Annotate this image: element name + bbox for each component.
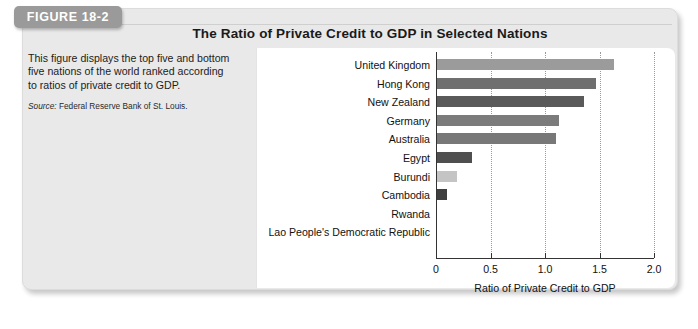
x-axis-tick <box>654 253 655 258</box>
x-axis-tick-label: 0 <box>421 263 451 275</box>
category-label: Lao People's Democratic Republic <box>268 225 430 239</box>
x-axis-tick-label: 1.0 <box>530 263 560 275</box>
x-axis-line <box>436 258 654 259</box>
chart-card: United KingdomHong KongNew ZealandGerman… <box>256 48 675 288</box>
x-axis-tick <box>600 253 601 258</box>
category-label: Hong Kong <box>377 77 430 91</box>
category-label: New Zealand <box>368 95 430 109</box>
x-axis-tick-label: 2.0 <box>639 263 669 275</box>
x-axis-tick <box>491 253 492 258</box>
bar <box>436 152 472 163</box>
x-axis-tick-label: 1.5 <box>585 263 615 275</box>
bar <box>436 96 584 107</box>
source-label: Source: <box>28 101 57 111</box>
bar <box>436 133 556 144</box>
category-label: Cambodia <box>382 188 430 202</box>
figure-caption: This figure displays the top five and bo… <box>28 52 233 92</box>
category-label: Rwanda <box>391 207 430 221</box>
x-axis-title: Ratio of Private Credit to GDP <box>425 282 665 294</box>
bar <box>436 78 596 89</box>
figure-number-badge: FIGURE 18-2 <box>14 6 122 28</box>
figure-container: FIGURE 18-2 The Ratio of Private Credit … <box>0 0 698 329</box>
bar <box>436 59 614 70</box>
bar <box>436 189 447 200</box>
y-axis-line <box>436 52 437 258</box>
x-axis-tick-label: 0.5 <box>476 263 506 275</box>
gridline-1.5 <box>600 52 601 258</box>
source-text: Federal Reserve Bank of St. Louis. <box>59 101 188 111</box>
gridline-2.0 <box>654 52 655 258</box>
category-label: United Kingdom <box>355 58 430 72</box>
figure-source: Source: Federal Reserve Bank of St. Loui… <box>28 101 243 112</box>
bar <box>436 171 457 182</box>
category-label: Burundi <box>393 170 430 184</box>
figure-title: The Ratio of Private Credit to GDP in Se… <box>150 26 590 41</box>
category-label: Australia <box>389 132 430 146</box>
x-axis-tick <box>436 253 437 258</box>
bar-chart-plot: United KingdomHong KongNew ZealandGerman… <box>257 48 675 288</box>
bar <box>436 115 559 126</box>
category-label: Egypt <box>403 151 430 165</box>
badge-divider <box>120 24 672 25</box>
x-axis-tick <box>545 253 546 258</box>
category-label: Germany <box>386 114 430 128</box>
